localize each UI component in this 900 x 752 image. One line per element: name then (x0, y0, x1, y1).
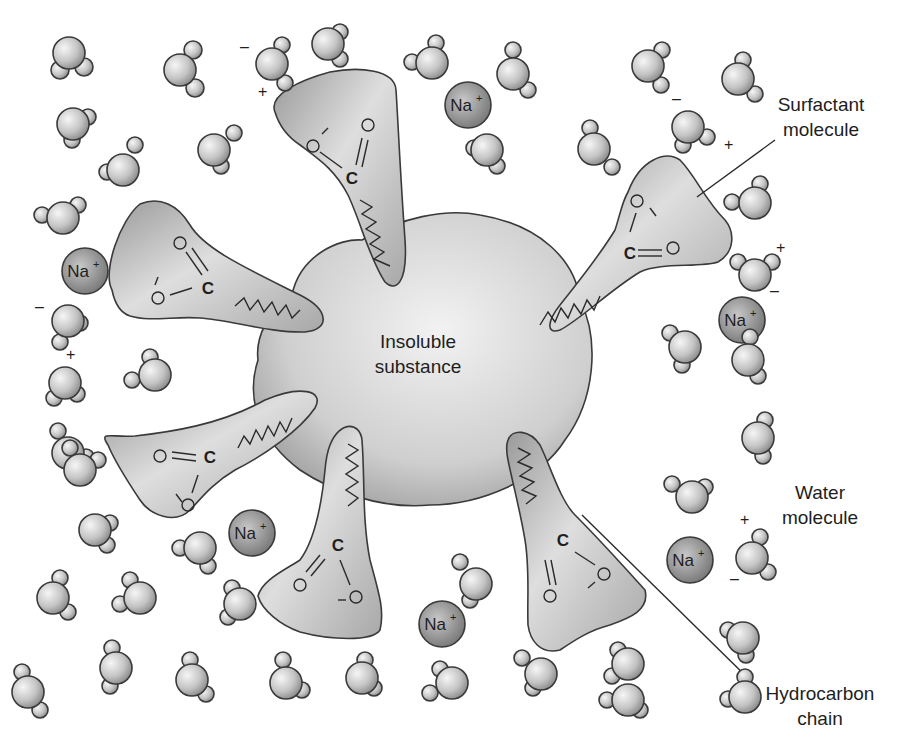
svg-text:+: + (698, 547, 704, 559)
svg-text:+: + (93, 258, 99, 270)
surfactant-molecule-right: C (540, 156, 732, 331)
svg-text:+: + (750, 307, 756, 319)
water-molecule (604, 642, 644, 684)
svg-text:Surfactant: Surfactant (778, 94, 865, 115)
svg-text:Na: Na (724, 311, 746, 330)
water-molecule (404, 35, 448, 79)
svg-text:+: + (776, 239, 785, 256)
svg-text:–: – (35, 298, 44, 315)
svg-text:chain: chain (797, 708, 842, 729)
svg-text:Na: Na (424, 615, 446, 634)
water-molecule (62, 440, 106, 486)
water-molecule (164, 41, 204, 97)
svg-text:–: – (730, 570, 739, 587)
water-molecule (112, 572, 156, 614)
water-molecule (57, 108, 96, 148)
surfactant-molecule-bottom-right: C (507, 432, 646, 651)
carbon-label: C (346, 169, 358, 188)
svg-text:–: – (240, 38, 249, 55)
svg-text:+: + (260, 520, 266, 532)
svg-text:molecule: molecule (782, 507, 858, 528)
water-molecule (724, 176, 771, 219)
sodium-ion: Na + (229, 510, 275, 556)
water-molecule (664, 476, 713, 513)
water-molecule (599, 684, 648, 718)
hydrocarbon-callout: Hydrocarbon chain (766, 683, 875, 729)
water-molecule (742, 412, 774, 464)
water-molecule (422, 661, 468, 701)
svg-text:+: + (66, 346, 75, 363)
svg-text:Hydrocarbon: Hydrocarbon (766, 683, 875, 704)
water-molecule (220, 580, 256, 625)
water-molecule (34, 197, 86, 234)
water-molecule (720, 669, 761, 713)
svg-text:+: + (724, 136, 733, 153)
water-molecule (466, 134, 505, 174)
carbon-label: C (202, 279, 214, 298)
svg-text:+: + (476, 92, 482, 104)
water-molecule (632, 42, 670, 93)
sodium-ion: Na + (667, 537, 713, 583)
water-molecule (198, 125, 242, 174)
surfactant-callout: Surfactant molecule (778, 94, 865, 140)
water-molecule (37, 570, 76, 620)
center-label-line1: Insoluble (380, 331, 456, 352)
surfactant-molecule-left-upper: C (109, 201, 323, 332)
carbon-label: C (332, 536, 344, 555)
svg-text:+: + (740, 511, 749, 528)
water-molecule (176, 652, 214, 702)
water-molecule (452, 554, 492, 608)
water-molecule (12, 664, 48, 718)
svg-text:Na: Na (67, 262, 89, 281)
svg-text:Water: Water (795, 482, 846, 503)
svg-text:–: – (770, 282, 779, 299)
water-molecule (100, 640, 132, 694)
water-molecule (79, 514, 118, 553)
water-molecule (672, 111, 715, 153)
svg-text:–: – (672, 90, 681, 107)
sodium-ion: Na + (419, 601, 465, 647)
water-molecule (172, 532, 216, 574)
water-molecule (497, 42, 536, 98)
water-molecule (51, 37, 93, 79)
water-molecule (514, 650, 557, 696)
water-molecule (124, 349, 171, 391)
water-molecule (722, 52, 763, 102)
water-molecule (312, 24, 348, 67)
water-molecule (46, 367, 85, 406)
water-molecule (52, 305, 88, 350)
water-molecule (578, 120, 620, 175)
sodium-ion: Na + (62, 248, 108, 294)
svg-text:Na: Na (450, 96, 472, 115)
carbon-label: C (624, 244, 636, 263)
svg-text:molecule: molecule (783, 119, 859, 140)
water-molecule (662, 325, 701, 373)
carbon-label: C (557, 531, 569, 550)
svg-text:Na: Na (234, 524, 256, 543)
svg-text:Na: Na (672, 551, 694, 570)
carbon-label: C (204, 448, 216, 467)
center-label-line2: substance (375, 356, 462, 377)
svg-text:+: + (258, 83, 267, 100)
water-callout: Water molecule (782, 482, 858, 528)
micelle-diagram: Insoluble substance C C C (0, 0, 900, 752)
water-molecule (270, 652, 310, 699)
water-molecule (736, 529, 776, 580)
water-molecule (99, 137, 143, 186)
svg-text:+: + (450, 611, 456, 623)
sodium-ion: Na + (445, 82, 491, 128)
water-molecule (346, 652, 382, 696)
